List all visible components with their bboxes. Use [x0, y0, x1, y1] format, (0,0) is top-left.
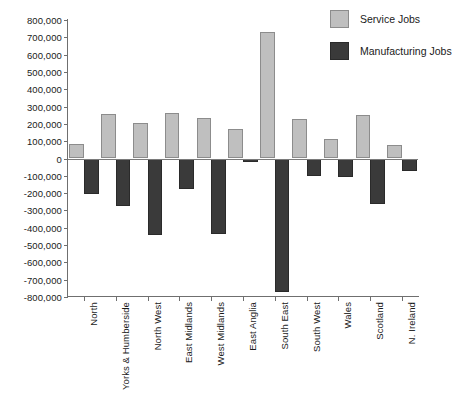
- y-tick-mark: [64, 210, 68, 211]
- y-tick-label: 300,000: [27, 101, 68, 112]
- y-tick-mark: [64, 193, 68, 194]
- bar-service: [260, 32, 275, 158]
- legend-item-manufacturing: Manufacturing Jobs: [330, 42, 452, 60]
- y-tick-label: -300,000: [24, 205, 68, 216]
- bar-service: [356, 115, 371, 159]
- bar-manufacturing: [307, 159, 322, 176]
- x-tick-label: Scotland: [374, 302, 385, 340]
- bar-service: [228, 129, 243, 158]
- bar-service: [101, 114, 116, 159]
- legend-swatch-service-icon: [330, 10, 349, 28]
- bar-manufacturing: [116, 159, 131, 207]
- x-tick-mark: [402, 296, 403, 301]
- y-tick-mark: [64, 228, 68, 229]
- y-tick-mark: [64, 72, 68, 73]
- legend-swatch-manufacturing-icon: [330, 42, 349, 60]
- x-tick-label: East Anglia: [247, 302, 258, 351]
- y-tick-label: -500,000: [24, 240, 68, 251]
- x-tick-mark: [148, 296, 149, 301]
- bar-service: [165, 113, 180, 159]
- x-tick-mark: [179, 296, 180, 301]
- x-tick-mark: [243, 296, 244, 301]
- x-tick-mark: [211, 296, 212, 301]
- x-tick-mark: [275, 296, 276, 301]
- y-tick-label: -600,000: [24, 257, 68, 268]
- x-tick-mark: [338, 296, 339, 301]
- x-tick-label: N. Ireland: [406, 302, 417, 344]
- bar-service: [197, 118, 212, 159]
- x-tick-label: South West: [311, 302, 322, 352]
- y-tick-mark: [64, 280, 68, 281]
- x-tick-label: East Midlands: [183, 302, 194, 363]
- y-tick-label: 800,000: [27, 15, 68, 26]
- y-tick-mark: [64, 262, 68, 263]
- x-tick-mark: [84, 296, 85, 301]
- y-tick-mark: [64, 297, 68, 298]
- legend-label-service: Service Jobs: [360, 13, 420, 25]
- y-tick-label: -200,000: [24, 188, 68, 199]
- bar-service: [69, 144, 84, 158]
- y-tick-mark: [64, 107, 68, 108]
- y-tick-label: 500,000: [27, 66, 68, 77]
- chart-legend: Service Jobs Manufacturing Jobs: [330, 10, 452, 74]
- x-tick-label: South East: [279, 302, 290, 349]
- legend-item-service: Service Jobs: [330, 10, 452, 28]
- y-tick-mark: [64, 141, 68, 142]
- bar-manufacturing: [402, 159, 417, 171]
- y-tick-mark: [64, 124, 68, 125]
- x-tick-label: Wales: [342, 302, 353, 329]
- y-tick-mark: [64, 55, 68, 56]
- y-tick-label: 700,000: [27, 32, 68, 43]
- bar-manufacturing: [84, 159, 99, 195]
- x-tick-label: North: [88, 302, 99, 326]
- y-tick-label: 600,000: [27, 49, 68, 60]
- x-tick-mark: [307, 296, 308, 301]
- bar-service: [324, 139, 339, 158]
- bar-manufacturing: [338, 159, 353, 177]
- y-tick-label: 400,000: [27, 84, 68, 95]
- bar-service: [133, 123, 148, 159]
- x-tick-mark: [116, 296, 117, 301]
- y-tick-mark: [64, 245, 68, 246]
- y-tick-label: -100,000: [24, 170, 68, 181]
- x-tick-label: Yorks & Humberside: [120, 302, 131, 390]
- bar-service: [387, 145, 402, 158]
- y-tick-label: -800,000: [24, 292, 68, 303]
- x-tick-mark: [370, 296, 371, 301]
- y-tick-mark: [64, 176, 68, 177]
- y-tick-mark: [64, 37, 68, 38]
- bar-manufacturing: [179, 159, 194, 189]
- y-tick-mark: [64, 20, 68, 21]
- y-tick-label: -400,000: [24, 222, 68, 233]
- bar-manufacturing: [148, 159, 163, 235]
- bar-manufacturing: [370, 159, 385, 205]
- y-tick-label: 100,000: [27, 136, 68, 147]
- zero-baseline: [68, 159, 418, 160]
- y-tick-mark: [64, 89, 68, 90]
- y-tick-label: -700,000: [24, 274, 68, 285]
- bar-manufacturing: [211, 159, 226, 234]
- x-tick-label: West Midlands: [215, 302, 226, 365]
- bar-service: [292, 119, 307, 159]
- legend-label-manufacturing: Manufacturing Jobs: [360, 45, 452, 57]
- x-tick-label: North West: [152, 302, 163, 350]
- bar-manufacturing: [275, 159, 290, 292]
- y-tick-label: 200,000: [27, 118, 68, 129]
